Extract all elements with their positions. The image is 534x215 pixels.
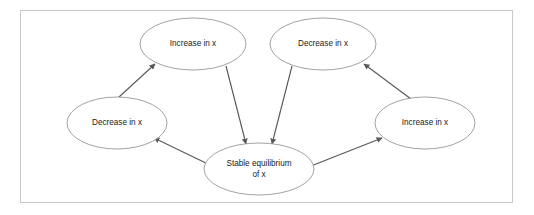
- edge-decrease-top-right-to-stable: [272, 66, 292, 144]
- node-layer: Increase in x Decrease in x Decrease in …: [67, 18, 475, 195]
- node-label-line2: of x: [252, 170, 265, 179]
- edge-decrease-left-to-increase-top-left: [119, 64, 155, 97]
- edge-stable-to-decrease-left: [154, 138, 210, 165]
- node-ellipse: [204, 143, 314, 195]
- node-increase-right[interactable]: Increase in x: [375, 97, 475, 149]
- node-label-line1: Decrease in x: [92, 118, 142, 127]
- edge-increase-right-to-decrease-top-right: [364, 64, 411, 99]
- diagram-canvas: Increase in x Decrease in x Decrease in …: [0, 0, 534, 215]
- edge-increase-top-left-to-stable: [226, 66, 246, 144]
- node-label-line1: Decrease in x: [298, 39, 348, 48]
- node-label-line1: Increase in x: [170, 39, 216, 48]
- node-decrease-top-right[interactable]: Decrease in x: [270, 18, 376, 70]
- node-increase-top-left[interactable]: Increase in x: [140, 18, 246, 70]
- node-stable-equilibrium[interactable]: Stable equilibrium of x: [204, 143, 314, 195]
- node-label-line1: Stable equilibrium: [226, 159, 291, 168]
- node-label-line1: Increase in x: [402, 118, 448, 127]
- edge-stable-to-increase-right: [311, 138, 382, 166]
- node-decrease-left[interactable]: Decrease in x: [67, 97, 167, 149]
